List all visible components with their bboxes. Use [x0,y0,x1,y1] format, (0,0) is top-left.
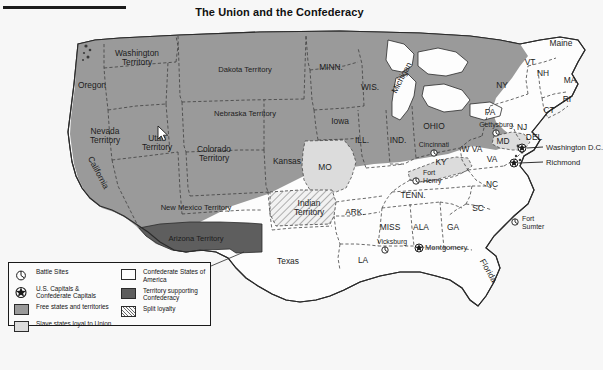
battle-site-label: Sumter [522,223,545,230]
region-label-text: Territory [199,153,230,163]
region-label-text: ILL. [355,135,369,145]
region-label: CT [543,105,554,115]
region-label: ColoradoTerritory [197,144,231,163]
legend-column-left: Battle SitesU.S. Capitals & Confederate … [14,268,114,336]
region-label-text: VA [487,154,498,164]
legend-swatch-box [121,269,136,280]
region-label: RI [563,94,571,104]
region-label-text: GA [447,222,460,232]
capital-label: Richmond [546,158,580,167]
battle-site-icon [413,178,419,184]
region-label: MINN. [319,62,343,72]
battle-site-icon [512,219,518,225]
battle-site-label: Fort [522,215,534,222]
region-label: NH [537,68,549,78]
legend-swatch [121,287,138,300]
region-label: NC [486,179,498,189]
region-label: MA [564,75,577,85]
region-label-text: NJ [517,122,527,132]
region-label: Oregon [78,80,106,90]
region-label-text: MO [318,162,332,172]
region-label: W VA [462,144,483,154]
region-label-text: Territory [294,207,325,217]
region-label: OHIO [423,121,445,131]
region-label-text: W VA [462,144,483,154]
region-label: MISS [380,222,401,232]
region-label: KY [435,157,447,167]
legend-item-label: Split loyalty [143,305,175,313]
region-label-text: Dakota Territory [218,65,272,74]
region-label-text: ALA [413,222,429,232]
region-label-text: CT [543,105,554,115]
region-label-text: NH [537,68,549,78]
region-label: Nebraska Territory [214,109,276,118]
legend-item: Battle Sites [14,268,114,281]
region-label-text: MISS [380,222,401,232]
region-label: MO [318,162,332,172]
region-label-text: VT [525,57,536,67]
legend-item-label: Territory supporting Confederacy [143,287,213,302]
region-label-text: New Mexico Territory [161,203,232,212]
battle-site-icon [493,130,499,136]
region-label-text: NY [496,80,508,90]
region-label: ILL. [355,135,369,145]
battle-site-label: Gettysburg [479,121,513,129]
region-label: VT [525,57,536,67]
legend-item: Free states and territories [14,303,114,316]
region-label-text: Territory [142,142,173,152]
legend-swatch [14,303,31,316]
capital-label: Washington D.C. [546,143,603,152]
legend-swatch [121,268,138,281]
capital-star-icon [14,285,31,298]
region-label: DEL [526,132,543,142]
region-label-text: Oregon [78,80,106,90]
legend-item: Slave states loyal to Union [14,320,114,333]
region-label-text: SC [472,203,484,213]
map-legend: Battle SitesU.S. Capitals & Confederate … [8,262,211,326]
battle-site-label: Cincinnati [419,141,450,148]
region-label: IndianTerritory [294,198,325,217]
region-label-text: RI [563,94,571,104]
legend-swatch-box [121,306,136,317]
region-label-text: OHIO [423,121,445,131]
legend-item: Territory supporting Confederacy [121,287,213,302]
legend-item: U.S. Capitals & Confederate Capitals [14,285,114,300]
region-label-text: ARK. [345,207,365,217]
region-label: NevadaTerritory [90,126,121,145]
region-label-text: MD [496,136,509,146]
region-label-text: Nebraska Territory [214,109,276,118]
region-label-text: Arizona Territory [168,234,223,243]
region-label: IND. [390,135,407,145]
region-label: GA [447,222,460,232]
battle-site: FortSumter [512,215,545,230]
legend-swatch-box [14,304,29,315]
region-label: New Mexico Territory [161,203,232,212]
legend-item-label: Battle Sites [36,268,68,276]
battle-site-label: Fort [423,169,435,176]
legend-item-label: Free states and territories [36,303,109,311]
region-label-text: PA [485,107,496,117]
legend-item: Confederate States of America [121,268,213,283]
region-label: MD [496,136,509,146]
legend-swatch [121,305,138,318]
region-label: NY [496,80,508,90]
battle-site-label: Henry [423,177,442,185]
region-label-text: MA [564,75,577,85]
region-label: Kansas [273,156,301,166]
battle-site-icon [14,268,31,281]
region-label-text: Kansas [273,156,301,166]
region-label-text: LA [358,255,369,265]
region-label: ALA [413,222,429,232]
region-label-text: Iowa [331,116,349,126]
map-page: The Union and the Confederacy [0,0,603,370]
region-label-text: KY [435,157,447,167]
region-label-text: Texas [277,256,299,266]
region-label-text: IND. [390,135,407,145]
region-label: PA [485,107,496,117]
region-label-text: Maine [550,38,573,48]
region-label-text: NC [486,179,498,189]
battle-site-label: Vicksburg [377,238,407,246]
region-label: Dakota Territory [218,65,272,74]
battle-site-icon [382,247,388,253]
region-label: Maine [550,38,573,48]
